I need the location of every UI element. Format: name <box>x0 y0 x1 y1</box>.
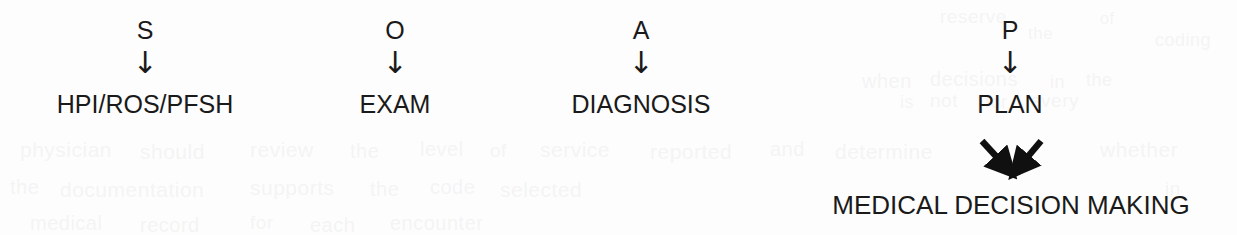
converging-arrows-icon <box>955 128 1075 186</box>
bleed-through-text: determine <box>835 140 933 164</box>
bleed-through-text: the <box>350 140 379 163</box>
bleed-through-text: the <box>1028 24 1053 44</box>
down-arrow-icon-plan: ↓ <box>997 48 1022 78</box>
bleed-through-text: code <box>430 176 475 199</box>
bleed-through-text: record <box>140 214 200 235</box>
bleed-through-text: of <box>1100 10 1114 28</box>
conclusion-label: MEDICAL DECISION MAKING <box>832 192 1189 218</box>
bleed-through-text: whether <box>1100 138 1178 162</box>
soap-flow-diagram: reservetheofcodingwhendecisionsintheisno… <box>0 0 1237 235</box>
converging-arrow-left <box>982 141 1005 166</box>
bleed-through-text: and <box>770 138 805 161</box>
bleed-through-text: the <box>10 176 39 199</box>
bleed-through-text: supports <box>250 176 335 200</box>
bleed-through-text: in <box>1050 72 1065 93</box>
converging-arrow-right <box>1020 141 1041 166</box>
column-label-subjective: HPI/ROS/PFSH <box>57 92 233 117</box>
bleed-through-text: service <box>540 138 610 162</box>
down-arrow-icon-objective: ↓ <box>382 48 407 78</box>
column-label-assessment: DIAGNOSIS <box>572 92 711 117</box>
bleed-through-text: reported <box>650 140 732 164</box>
bleed-through-text: reserve <box>940 6 1007 28</box>
column-letter-objective: O <box>385 18 404 43</box>
bleed-through-text: selected <box>500 178 582 202</box>
bleed-through-text: coding <box>1155 30 1211 51</box>
column-label-objective: EXAM <box>360 92 431 117</box>
bleed-through-text: of <box>490 140 507 162</box>
column-label-plan: PLAN <box>977 92 1042 117</box>
column-letter-assessment: A <box>633 18 650 43</box>
bleed-through-text: not <box>930 90 958 112</box>
down-arrow-icon-subjective: ↓ <box>132 48 157 78</box>
bleed-through-text: encounter <box>390 212 483 235</box>
down-arrow-icon-assessment: ↓ <box>628 48 653 78</box>
bleed-through-text: the <box>370 178 399 201</box>
column-letter-plan: P <box>1002 18 1019 43</box>
bleed-through-text: each <box>310 214 355 235</box>
bleed-through-text: level <box>420 138 464 161</box>
bleed-through-text: review <box>250 138 314 162</box>
bleed-through-text: medical <box>30 212 102 235</box>
bleed-through-text: is <box>900 92 914 113</box>
bleed-through-text: documentation <box>60 178 204 202</box>
bleed-through-text: for <box>250 212 274 234</box>
column-letter-subjective: S <box>137 18 154 43</box>
bleed-through-text: physician <box>20 138 112 162</box>
bleed-through-text: when <box>862 70 912 93</box>
bleed-through-text: the <box>1086 70 1113 91</box>
bleed-through-text: should <box>140 140 205 164</box>
